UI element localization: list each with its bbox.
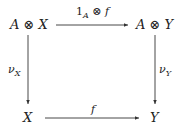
node-bottom-left: X bbox=[23, 111, 32, 125]
node-top-right: A ⊗ Y bbox=[136, 18, 173, 32]
top-arrow-label: 1A ⊗ f bbox=[76, 6, 109, 22]
bottom-arrow-label: f bbox=[91, 104, 95, 116]
node-top-left: A ⊗ X bbox=[10, 18, 48, 32]
right-arrow-label: νY bbox=[159, 64, 171, 80]
node-bottom-right: Y bbox=[150, 111, 159, 125]
left-arrow-label: νX bbox=[8, 64, 20, 80]
